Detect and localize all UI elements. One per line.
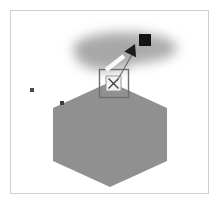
dot-marker-left[interactable] <box>30 88 34 92</box>
black-square-marker[interactable] <box>139 34 151 46</box>
figure-canvas <box>0 0 219 204</box>
dot-marker-edge[interactable] <box>60 101 64 105</box>
figure-root <box>0 0 219 204</box>
